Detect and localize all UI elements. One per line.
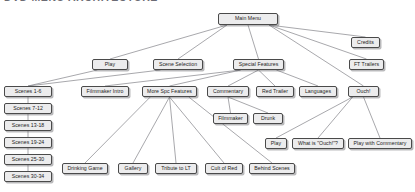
edge-main-menu-to-play: [110, 25, 227, 59]
node-filmmaker-intro[interactable]: Filmmaker Intro: [81, 86, 129, 97]
edge-ouch-to-what-is-ouch: [318, 97, 353, 138]
node-drinking-game[interactable]: Drinking Game: [62, 163, 108, 174]
node-scenes-19-24[interactable]: Scenes 19-24: [4, 137, 52, 148]
node-scenes-1-6[interactable]: Scenes 1-6: [4, 86, 52, 97]
node-scene-selection[interactable]: Scene Selection: [153, 59, 203, 70]
node-scenes-30-34[interactable]: Scenes 30-34: [4, 171, 52, 182]
edge-special-features-to-commentary: [228, 70, 259, 86]
edge-special-features-to-red-trailer: [259, 70, 276, 86]
node-credits[interactable]: Credits: [351, 37, 380, 48]
node-more-spc-features[interactable]: More Spc Features: [142, 86, 197, 97]
node-label: Play with Commentary: [354, 141, 407, 146]
edge-more-spc-features-to-drinking-game: [85, 97, 150, 163]
edge-commentary-to-filmmaker: [228, 97, 231, 113]
node-label: Scenes 7-12: [13, 106, 43, 111]
node-behind-scenes[interactable]: Behind Scenes: [249, 163, 295, 174]
node-commentary[interactable]: Commentary: [207, 86, 249, 97]
node-label: Scenes 13-18: [12, 123, 45, 128]
node-tribute-to-lt[interactable]: Tribute to LT: [155, 163, 197, 174]
node-label: More Spc Features: [147, 89, 192, 94]
node-special-features[interactable]: Special Features: [233, 59, 284, 70]
node-label: Credits: [357, 40, 374, 45]
node-label: Languages: [305, 89, 331, 94]
node-label: Play: [105, 62, 115, 67]
node-label: Behind Scenes: [254, 166, 290, 171]
node-play[interactable]: Play: [92, 59, 128, 70]
node-red-trailer[interactable]: Red Trailer: [256, 86, 294, 97]
node-label: Play: [271, 141, 281, 146]
node-label: Drinking Game: [67, 166, 102, 171]
node-scenes-7-12[interactable]: Scenes 7-12: [4, 103, 52, 114]
node-label: Cult of Red: [211, 166, 238, 171]
node-main-menu[interactable]: Main Menu: [218, 13, 278, 25]
edge-more-spc-features-to-behind-scenes: [189, 97, 272, 163]
node-languages[interactable]: Languages: [299, 86, 337, 97]
edge-special-features-to-filmmaker-intro: [105, 70, 241, 86]
edge-main-menu-to-scene-selection: [178, 25, 227, 59]
edge-more-spc-features-to-tribute-to-lt: [170, 97, 177, 163]
node-label: Gallery: [125, 166, 142, 171]
edge-special-features-to-languages: [276, 70, 318, 86]
node-gallery[interactable]: Gallery: [118, 163, 148, 174]
node-label: Filmmaker Intro: [87, 89, 124, 94]
diagram-canvas: DVD MENU ARCHITECTURE Main MenuPlayScene…: [0, 0, 415, 192]
node-label: Special Features: [239, 62, 279, 67]
node-label: Scenes 19-24: [12, 140, 45, 145]
edge-scene-selection-to-scenes-1-6: [28, 70, 161, 86]
node-label: Filmmaker: [218, 116, 243, 121]
node-label: Scenes 1-6: [15, 89, 42, 94]
node-label: Scenes 25-30: [12, 157, 45, 162]
edge-main-menu-to-special-features: [248, 25, 259, 59]
node-scenes-25-30[interactable]: Scenes 25-30: [4, 154, 52, 165]
edge-commentary-to-drunk: [228, 97, 268, 113]
node-cult-of-red[interactable]: Cult of Red: [205, 163, 243, 174]
node-label: What is "Ouch!"?: [298, 141, 338, 146]
node-drunk[interactable]: Drunk: [253, 113, 283, 124]
node-label: Drunk: [261, 116, 275, 121]
node-label: Tribute to LT: [161, 166, 190, 171]
node-ouch[interactable]: Ouch!: [348, 86, 379, 97]
edge-main-menu-to-credits: [269, 25, 366, 37]
node-scenes-13-18[interactable]: Scenes 13-18: [4, 120, 52, 131]
node-label: Ouch!: [356, 89, 370, 94]
edge-ouch-to-ouch-play: [276, 97, 353, 138]
node-label: Main Menu: [235, 16, 261, 21]
edge-play-to-scenes-1-6: [28, 70, 97, 86]
node-play-with-comm[interactable]: Play with Commentary: [348, 138, 412, 149]
node-ft-trailers[interactable]: FT Trailers: [349, 59, 384, 70]
edge-more-spc-features-to-gallery: [133, 97, 170, 163]
edge-main-menu-to-ouch: [269, 25, 364, 86]
node-ouch-play[interactable]: Play: [265, 138, 287, 149]
node-what-is-ouch[interactable]: What is "Ouch!"?: [292, 138, 344, 149]
node-label: Red Trailer: [262, 89, 288, 94]
node-label: Commentary: [213, 89, 243, 94]
node-label: Scene Selection: [159, 62, 197, 67]
node-label: Scenes 30-34: [12, 174, 45, 179]
edge-more-spc-features-to-cult-of-red: [170, 97, 225, 163]
edge-special-features-to-more-spc-features: [170, 70, 241, 86]
node-filmmaker[interactable]: Filmmaker: [213, 113, 248, 124]
edge-ouch-to-play-with-comm: [364, 97, 381, 138]
node-label: FT Trailers: [354, 62, 379, 67]
